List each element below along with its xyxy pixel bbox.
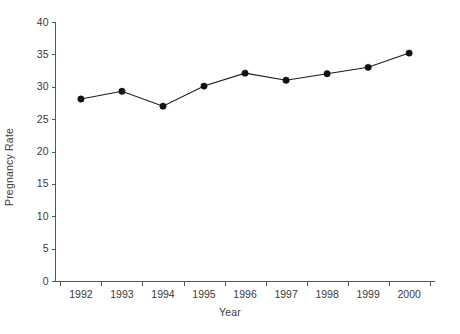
x-tick-label: 1997 (274, 288, 298, 300)
y-tick-label: 20 (37, 145, 49, 157)
data-point (160, 103, 166, 109)
data-point (242, 70, 248, 76)
data-point (201, 83, 207, 89)
x-tick-label: 1993 (110, 288, 134, 300)
x-tick-label: 1999 (356, 288, 380, 300)
x-tick-label: 1998 (315, 288, 339, 300)
y-tick-label: 30 (37, 80, 49, 92)
x-tick-label: 1994 (151, 288, 175, 300)
y-tick-label: 10 (37, 210, 49, 222)
data-point (119, 88, 125, 94)
plot-area: 0510152025303540 19921993199419951996199… (0, 0, 460, 334)
y-tick-label: 0 (43, 275, 49, 287)
data-point (324, 71, 330, 77)
y-tick-label: 35 (37, 48, 49, 60)
x-tick-label: 1995 (192, 288, 216, 300)
x-tick-label: 2000 (397, 288, 421, 300)
x-tick-label: 1992 (69, 288, 93, 300)
y-axis-ticks: 0510152025303540 (37, 16, 56, 287)
data-point (283, 77, 289, 83)
y-tick-label: 25 (37, 113, 49, 125)
series-markers (78, 50, 413, 109)
data-point (365, 64, 371, 70)
data-point (78, 96, 84, 102)
x-tick-label: 1996 (233, 288, 257, 300)
series-line-pregnancy-rate (81, 53, 409, 106)
x-axis-tick-labels: 199219931994199519961997199819992000 (69, 288, 421, 300)
line-chart: Pregnancy Rate Year 0510152025303540 199… (0, 0, 460, 334)
y-tick-label: 5 (43, 242, 49, 254)
y-tick-label: 15 (37, 177, 49, 189)
data-point (406, 50, 412, 56)
y-tick-label: 40 (37, 16, 49, 28)
